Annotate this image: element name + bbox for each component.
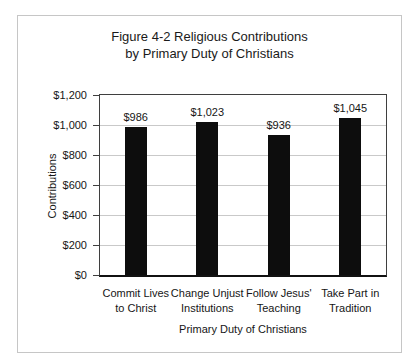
y-tick-label: $600 <box>41 179 87 192</box>
bar <box>339 118 361 275</box>
chart-title-line-1: Figure 4-2 Religious Contributions <box>18 28 401 45</box>
y-axis-tick <box>93 155 99 156</box>
plot-area: $986$1,023$936$1,045 <box>99 94 387 277</box>
y-tick-label: $800 <box>41 149 87 162</box>
y-tick-label: $1,200 <box>41 89 87 102</box>
category-label: Take Part in Tradition <box>304 286 396 316</box>
y-axis-tick <box>93 185 99 186</box>
bar <box>196 122 218 275</box>
y-tick-label: $0 <box>41 269 87 282</box>
y-axis-tick <box>93 215 99 216</box>
chart-frame: Figure 4-2 Religious Contributions by Pr… <box>17 15 402 353</box>
bar-value-label: $1,045 <box>315 102 385 114</box>
y-axis-tick <box>93 245 99 246</box>
bar <box>268 135 290 275</box>
y-tick-label: $1,000 <box>41 119 87 132</box>
bar-value-label: $1,023 <box>172 106 242 118</box>
chart-title-line-2: by Primary Duty of Christians <box>18 45 401 62</box>
y-axis-tick <box>93 275 99 276</box>
y-tick-label: $400 <box>41 209 87 222</box>
y-tick-label: $200 <box>41 239 87 252</box>
y-axis-tick <box>93 95 99 96</box>
bar-value-label: $986 <box>101 111 171 123</box>
bar-value-label: $936 <box>244 119 314 131</box>
x-axis-title: Primary Duty of Christians <box>99 323 387 335</box>
y-axis-tick <box>93 125 99 126</box>
bar <box>125 127 147 275</box>
chart-title: Figure 4-2 Religious Contributions by Pr… <box>18 28 401 62</box>
